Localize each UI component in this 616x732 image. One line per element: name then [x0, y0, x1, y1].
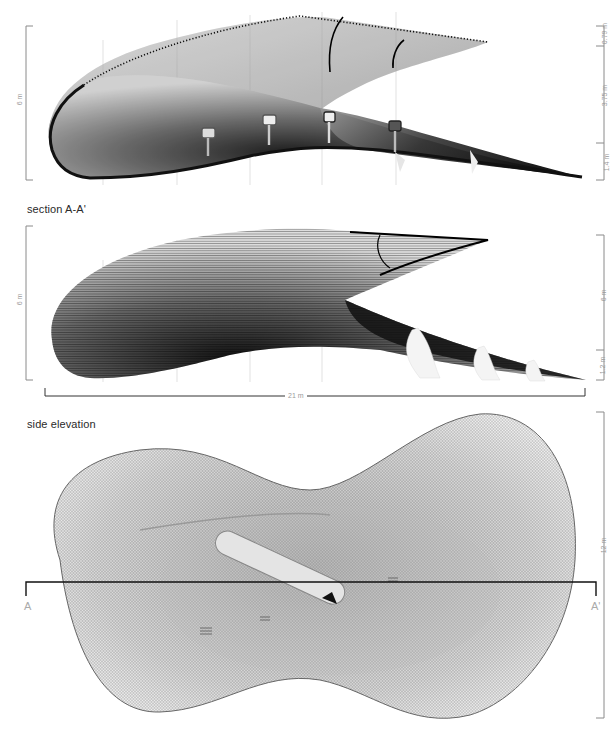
section-drawing	[51, 229, 586, 382]
dim-left-height-2: 6 m	[16, 294, 23, 306]
caption-section-a-a: section A-A'	[27, 203, 86, 215]
side-elevation-drawing	[26, 414, 596, 719]
elevation-top-drawing	[49, 12, 582, 185]
dim-right-bottom-1: 1.4 m	[603, 154, 610, 172]
section-marker-a-prime: A'	[591, 600, 600, 612]
drawing-canvas	[0, 0, 616, 732]
section-marker-a: A	[24, 600, 31, 612]
caption-side-elevation: side elevation	[27, 418, 96, 430]
dim-right-upper-2: 6 m	[600, 290, 607, 302]
dim-right-lower-2: 1.2 m	[599, 357, 606, 375]
side-elevation-dimensions	[596, 412, 604, 718]
dim-right-height-3: 12 m	[600, 538, 607, 554]
dim-right-top-1: 0.79 m	[601, 23, 608, 44]
dim-right-mid-1: 3.75 m	[601, 85, 608, 106]
dim-horizontal-length: 21 m	[285, 392, 307, 399]
dim-left-height-1: 6 m	[16, 94, 23, 106]
